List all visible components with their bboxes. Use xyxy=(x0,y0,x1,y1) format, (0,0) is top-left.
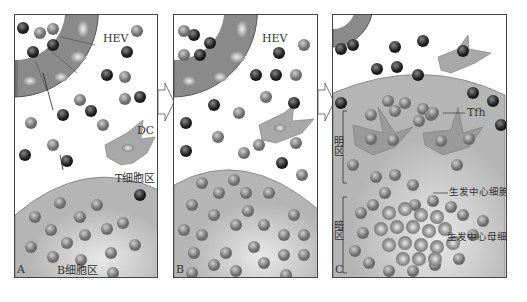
dc-label: DC xyxy=(137,125,154,136)
panel-letter-c: C xyxy=(335,263,343,276)
b-zone-label: B细胞区 xyxy=(57,265,98,276)
panel-letter-a: A xyxy=(17,263,25,276)
panel-a: HEV DC T细胞区 B细胞区 A xyxy=(14,14,158,278)
panel-letter-b: B xyxy=(176,263,184,276)
gc-cell-label: 生发中心细胞 xyxy=(449,187,507,197)
hev-label: HEV xyxy=(103,33,129,44)
t-zone-label: T细胞区 xyxy=(115,173,155,184)
dark-zone-label: 暗 区 xyxy=(334,221,344,241)
panel-b: HEV B xyxy=(173,14,318,278)
panel-c: Tfh 明 区 暗 区 生发中心细胞 生发中心母细胞 C xyxy=(332,14,507,278)
tfh-label: Tfh xyxy=(467,107,486,118)
hev-label: HEV xyxy=(262,33,288,44)
light-zone-label: 明 区 xyxy=(334,137,344,157)
panel-b-illustration xyxy=(174,15,318,278)
gc-blast-label: 生发中心母细胞 xyxy=(447,232,507,242)
panel-a-illustration xyxy=(15,15,158,278)
